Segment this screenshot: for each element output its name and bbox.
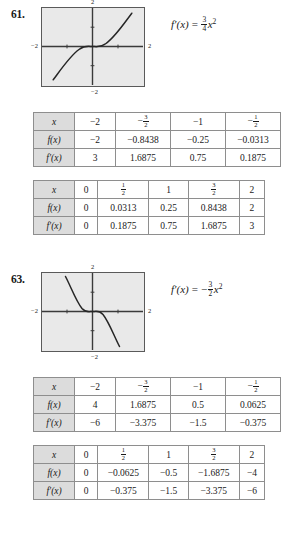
row-label: f′(x)	[34, 217, 75, 235]
graph-label-bottom: −2	[91, 354, 98, 361]
fraction-denominator: 4	[201, 24, 207, 33]
table-cell: −0.8438	[116, 131, 171, 149]
fraction-numerator: 3	[201, 16, 207, 24]
table-cell: −0.375	[226, 414, 281, 432]
formula-lhs: f′(x)	[171, 283, 189, 295]
table-cell: 0	[75, 199, 98, 217]
fraction-denominator: 2	[208, 289, 214, 298]
table-cell: 32	[188, 446, 239, 464]
table-cell: −32	[116, 378, 171, 396]
formula-61: f′(x)=34x2	[171, 16, 216, 32]
table-cell: 32	[188, 181, 239, 199]
table-row: f(x) −2 −0.8438 −0.25 −0.0313	[34, 131, 281, 149]
table-cell: −0.25	[171, 131, 226, 149]
formula-fraction: 34	[201, 16, 207, 32]
table-cell: 0.25	[149, 199, 188, 217]
fraction-numerator: 3	[208, 281, 214, 289]
table-row: x 0 12 1 32 2	[34, 181, 265, 199]
table-cell: 0	[75, 446, 98, 464]
row-label: x	[34, 113, 75, 131]
table-cell: 1.6875	[116, 396, 171, 414]
values-table-63-positive: x 0 12 1 32 2 f(x) 0 −0.0625 −0.5 −1.687…	[33, 445, 265, 500]
row-label: f′(x)	[34, 149, 75, 167]
table-row: f′(x) 3 1.6875 0.75 0.1875	[34, 149, 281, 167]
table-cell: −2	[75, 378, 116, 396]
table-cell: 0.1875	[98, 217, 149, 235]
table-cell: −1.6875	[188, 464, 239, 482]
table-cell: 2	[239, 181, 264, 199]
table-cell: −0.0625	[98, 464, 149, 482]
table-row: x −2 −32 −1 −12	[34, 378, 281, 396]
graph-label-bottom: −2	[91, 89, 98, 96]
graph-61: 2 −2 −2 2	[41, 7, 149, 91]
formula-sign: −	[201, 283, 207, 295]
table-cell: −0.5	[149, 464, 188, 482]
table-cell: 0.1875	[226, 149, 281, 167]
table-cell: 12	[98, 446, 149, 464]
row-label: x	[34, 446, 75, 464]
table-cell: −1	[171, 113, 226, 131]
formula-lhs: f′(x)	[171, 18, 189, 30]
table-cell: 0.0313	[98, 199, 149, 217]
graph-plot-area	[41, 7, 145, 87]
graph-label-top: 2	[91, 0, 94, 6]
row-label: f′(x)	[34, 414, 75, 432]
table-row: f′(x) 0 0.1875 0.75 1.6875 3	[34, 217, 265, 235]
formula-equals: =	[189, 18, 201, 30]
formula-fraction: 32	[208, 281, 214, 297]
table-cell: −1.5	[149, 482, 188, 500]
table-cell: 1	[149, 446, 188, 464]
table-row: f(x) 0 0.0313 0.25 0.8438 2	[34, 199, 265, 217]
table-cell: 2	[239, 446, 264, 464]
formula-63: f′(x)=−32x2	[171, 281, 223, 297]
table-cell: −2	[75, 131, 116, 149]
table-cell: −0.0313	[226, 131, 281, 149]
formula-exponent: 2	[213, 17, 217, 26]
row-label: f(x)	[34, 464, 75, 482]
table-cell: −4	[239, 464, 264, 482]
graph-label-left: −2	[31, 43, 38, 50]
values-table-61-positive: x 0 12 1 32 2 f(x) 0 0.0313 0.25 0.8438 …	[33, 180, 265, 235]
row-label: f′(x)	[34, 482, 75, 500]
row-label: x	[34, 181, 75, 199]
table-cell: −3.375	[188, 482, 239, 500]
table-cell: 0.8438	[188, 199, 239, 217]
graph-label-top: 2	[91, 264, 94, 271]
row-label: f(x)	[34, 199, 75, 217]
table-cell: 1.6875	[116, 149, 171, 167]
graph-label-right: 2	[148, 308, 151, 315]
table-cell: 0	[75, 482, 98, 500]
values-table-63-negative: x −2 −32 −1 −12 f(x) 4 1.6875 0.5 0.0625…	[33, 377, 281, 432]
table-cell: 2	[239, 199, 264, 217]
table-row: x 0 12 1 32 2	[34, 446, 265, 464]
table-row: f(x) 0 −0.0625 −0.5 −1.6875 −4	[34, 464, 265, 482]
formula-equals: =	[189, 283, 201, 295]
table-cell: 3	[75, 149, 116, 167]
table-cell: 0.5	[171, 396, 226, 414]
table-cell: −2	[75, 113, 116, 131]
table-cell: −3.375	[116, 414, 171, 432]
table-cell: 0	[75, 181, 98, 199]
values-table-61-negative: x −2 −32 −1 −12 f(x) −2 −0.8438 −0.25 −0…	[33, 112, 281, 167]
table-row: x −2 −32 −1 −12	[34, 113, 281, 131]
table-cell: −12	[226, 113, 281, 131]
table-cell: 0.75	[149, 217, 188, 235]
graph-plot-area	[41, 272, 145, 352]
table-cell: 0.75	[171, 149, 226, 167]
table-row: f′(x) −6 −3.375 −1.5 −0.375	[34, 414, 281, 432]
table-cell: 1.6875	[188, 217, 239, 235]
table-cell: −1.5	[171, 414, 226, 432]
table-row: f(x) 4 1.6875 0.5 0.0625	[34, 396, 281, 414]
table-cell: 0	[75, 217, 98, 235]
row-label: f(x)	[34, 131, 75, 149]
problem-number: 61.	[11, 8, 25, 20]
table-cell: −32	[116, 113, 171, 131]
table-cell: −0.375	[98, 482, 149, 500]
problem-number: 63.	[11, 273, 25, 285]
table-cell: 4	[75, 396, 116, 414]
graph-label-left: −2	[31, 308, 38, 315]
row-label: f(x)	[34, 396, 75, 414]
table-cell: 0.0625	[226, 396, 281, 414]
table-cell: 3	[239, 217, 264, 235]
row-label: x	[34, 378, 75, 396]
